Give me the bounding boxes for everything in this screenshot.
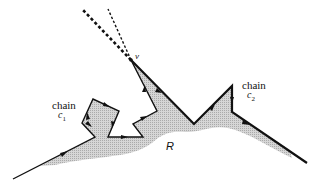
region-r-label: R [166,141,174,152]
vertex-v-label: v [135,52,139,61]
chain-c1-symbol: c1 [58,110,66,123]
dashed-ray-thick [82,9,131,60]
dashed-ray-thin [108,9,131,60]
vertex-v-point [129,58,133,62]
diagram-canvas [0,0,317,187]
chain-c2-symbol: c2 [247,90,255,103]
diagram-figure: v chain c1 chain c2 R [0,0,317,187]
